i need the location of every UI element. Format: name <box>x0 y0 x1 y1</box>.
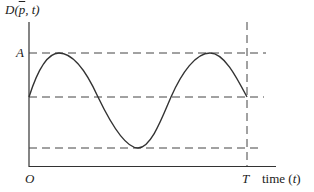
y-label-d: D( <box>5 2 19 17</box>
amplitude-label: A <box>16 45 24 61</box>
sine-curve <box>29 53 247 148</box>
y-axis-label: D(p, t) <box>5 2 40 18</box>
x-label-text: time ( <box>262 171 293 186</box>
origin-label: O <box>25 171 34 187</box>
period-end-label: T <box>242 171 249 187</box>
y-label-rest: , t) <box>25 2 39 17</box>
x-label-close: ) <box>296 171 300 186</box>
sine-plot <box>0 0 314 192</box>
x-axis-label: time (t) <box>262 171 301 187</box>
